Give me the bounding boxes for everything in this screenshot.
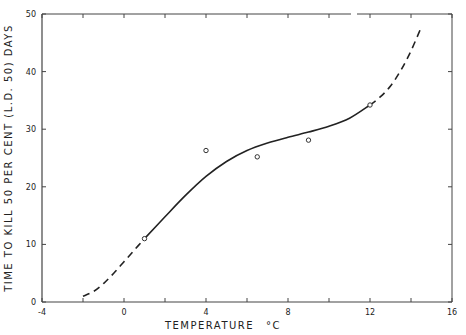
x-tick-label: 4 <box>203 308 208 317</box>
axis-ticks <box>42 14 452 302</box>
y-tick-label: 20 <box>26 183 36 192</box>
data-point-marker <box>255 155 259 159</box>
y-tick-label: 30 <box>26 125 36 134</box>
y-tick-label: 40 <box>26 68 36 77</box>
y-tick-label: 10 <box>26 240 36 249</box>
data-point-marker <box>142 236 146 240</box>
x-axis-label: TEMPERATURE°C <box>164 320 281 331</box>
solid-fit-curve <box>145 105 371 239</box>
x-tick-label: -4 <box>38 308 46 317</box>
chart-canvas: -4048121601020304050 TEMPERATURE°C TIME … <box>0 0 466 335</box>
x-tick-label: 0 <box>121 308 126 317</box>
y-axis-label: TIME TO KILL 50 PER CENT (L.D. 50) DAYS <box>3 24 14 293</box>
x-tick-label: 16 <box>447 308 457 317</box>
data-point-marker <box>306 138 310 142</box>
dashed-extrapolation-curve <box>83 239 145 297</box>
y-tick-label: 0 <box>31 298 36 307</box>
x-tick-label: 8 <box>285 308 290 317</box>
x-tick-label: 12 <box>365 308 375 317</box>
tick-labels: -4048121601020304050 <box>26 10 457 317</box>
data-point-marker <box>368 103 372 107</box>
y-tick-label: 50 <box>26 10 36 19</box>
data-curves <box>83 27 421 296</box>
data-point-marker <box>204 148 208 152</box>
dashed-extrapolation-curve <box>370 27 421 105</box>
plot-frame <box>42 14 452 302</box>
